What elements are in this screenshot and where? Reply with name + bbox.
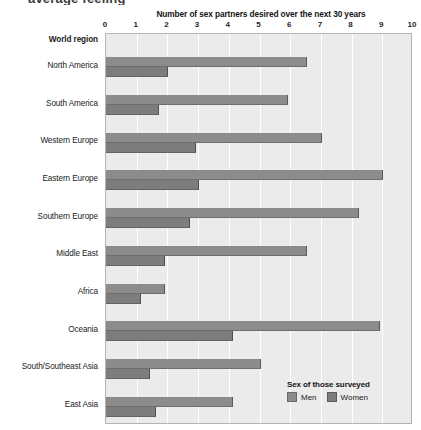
gridline xyxy=(352,34,353,423)
x-axis-tick-label: 3 xyxy=(195,20,199,29)
y-axis-category-label: Eastern Europe xyxy=(43,174,99,183)
plot-area xyxy=(105,33,412,424)
bar xyxy=(106,256,165,266)
gridline xyxy=(290,34,291,423)
bar xyxy=(106,294,141,304)
bar xyxy=(106,321,380,331)
x-axis-tick-label: 1 xyxy=(133,20,137,29)
chart-legend: Sex of those surveyed MenWomen xyxy=(287,380,407,402)
x-axis-tick-label: 2 xyxy=(164,20,168,29)
y-axis-category-label: Western Europe xyxy=(40,136,98,145)
x-axis-tick-label: 4 xyxy=(226,20,230,29)
bar xyxy=(106,331,233,341)
legend-label: Women xyxy=(341,393,368,402)
bar xyxy=(106,57,307,67)
y-axis-category-label: Oceania xyxy=(68,325,98,334)
bar xyxy=(106,369,150,379)
bar xyxy=(106,133,322,143)
bar xyxy=(106,95,288,105)
x-axis-tick-label: 10 xyxy=(408,20,417,29)
x-axis-tick-label: 8 xyxy=(348,20,352,29)
bar xyxy=(106,397,233,407)
bar xyxy=(106,143,196,153)
bar xyxy=(106,170,383,180)
chart-title: Number of sex partners desired over the … xyxy=(106,9,416,19)
x-axis-tick-label: 0 xyxy=(103,20,107,29)
x-axis-tick-label: 6 xyxy=(287,20,291,29)
legend-entry: Women xyxy=(327,392,368,402)
legend-entry: Men xyxy=(287,392,317,402)
x-axis-tick-label: 7 xyxy=(318,20,322,29)
bar xyxy=(106,105,159,115)
legend-title: Sex of those surveyed xyxy=(287,380,407,389)
legend-swatch-icon xyxy=(327,392,337,402)
x-axis-tick-label: 5 xyxy=(256,20,260,29)
legend-label: Men xyxy=(301,393,317,402)
bar xyxy=(106,246,307,256)
gridline xyxy=(382,34,383,423)
bar xyxy=(106,359,261,369)
bar xyxy=(106,407,156,417)
legend-swatch-icon xyxy=(287,392,297,402)
bar xyxy=(106,180,199,190)
y-axis-category-label: South America xyxy=(46,99,98,108)
y-axis-category-labels: World regionNorth AmericaSouth AmericaWe… xyxy=(0,33,101,424)
y-axis-category-label: East Asia xyxy=(65,400,98,409)
y-axis-header-label: World region xyxy=(49,35,98,44)
y-axis-category-label: Southern Europe xyxy=(38,212,98,221)
bar xyxy=(106,67,168,77)
cut-off-heading-fragment: average feeling xyxy=(28,0,126,5)
x-axis-tick-labels: 012345678910 xyxy=(0,20,421,32)
bar xyxy=(106,208,359,218)
y-axis-category-label: South/Southeast Asia xyxy=(22,362,98,371)
gridline xyxy=(321,34,322,423)
legend-entries: MenWomen xyxy=(287,392,407,402)
bar xyxy=(106,218,190,228)
y-axis-category-label: North America xyxy=(47,61,98,70)
bar xyxy=(106,284,165,294)
y-axis-category-label: Africa xyxy=(78,287,98,296)
y-axis-category-label: Middle East xyxy=(56,249,98,258)
x-axis-tick-label: 9 xyxy=(379,20,383,29)
